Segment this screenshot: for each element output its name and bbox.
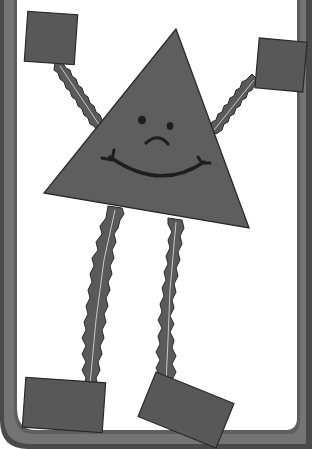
left-hand — [24, 11, 77, 64]
right-eye — [167, 123, 173, 130]
triangle-character-art — [0, 0, 312, 449]
left-eye — [139, 116, 146, 124]
right-hand — [255, 38, 307, 92]
left-foot — [22, 377, 105, 432]
illustration — [0, 0, 312, 449]
